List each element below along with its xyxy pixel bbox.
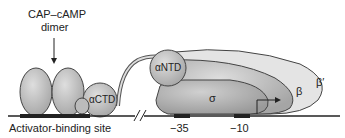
minus35-label: −35 <box>170 122 189 134</box>
beta-label: β <box>296 85 302 97</box>
beta-prime-label: β′ <box>316 76 324 88</box>
alpha-ntd-label: αNTD <box>155 62 181 73</box>
sigma-label: σ <box>209 92 216 104</box>
cap-camp-label: CAP–cAMP <box>28 8 86 20</box>
dimer-label: dimer <box>41 21 69 33</box>
activator-binding-site-label: Activator-binding site <box>9 122 111 134</box>
cap-monomer-left <box>20 68 52 116</box>
minus10-label: −10 <box>230 122 249 134</box>
alpha-ctd-label: αCTD <box>89 94 115 105</box>
